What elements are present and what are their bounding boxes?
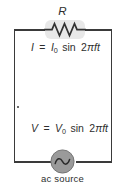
frequency-time-term: ft xyxy=(94,41,100,53)
ac-source-icon xyxy=(50,149,75,174)
frequency-time-term: ft xyxy=(102,122,108,134)
voltage-symbol: V xyxy=(31,122,38,134)
sine-function: sin xyxy=(61,41,76,53)
ac-circuit-diagram: R I = I0 sin 2πft V = V0 sin 2πft ac sou… xyxy=(0,0,125,190)
equals-sign: = xyxy=(37,41,48,53)
wire-segment-bottom-left xyxy=(14,161,51,163)
voltage-amplitude-symbol: V xyxy=(55,122,62,134)
equals-sign: = xyxy=(41,122,52,134)
voltage-amplitude-subscript: 0 xyxy=(62,127,66,136)
current-symbol: I xyxy=(31,41,34,53)
resistor-icon xyxy=(44,20,86,39)
angular-coefficient: 2 xyxy=(79,41,87,53)
pi-symbol: π xyxy=(87,41,94,53)
stray-mark xyxy=(17,106,19,108)
ac-source-label: ac source xyxy=(0,174,125,184)
current-equation: I = I0 sin 2πft xyxy=(31,42,100,53)
voltage-equation: V = V0 sin 2πft xyxy=(31,123,108,134)
wire-segment-left xyxy=(14,29,16,162)
current-amplitude-subscript: 0 xyxy=(54,46,58,55)
sine-function: sin xyxy=(69,122,84,134)
angular-coefficient: 2 xyxy=(87,122,95,134)
wire-segment-bottom-right xyxy=(76,161,112,163)
wire-segment-top-left xyxy=(14,29,47,31)
wire-segment-top-right xyxy=(83,29,112,31)
resistor-label: R xyxy=(0,6,125,18)
wire-segment-right xyxy=(111,29,113,162)
